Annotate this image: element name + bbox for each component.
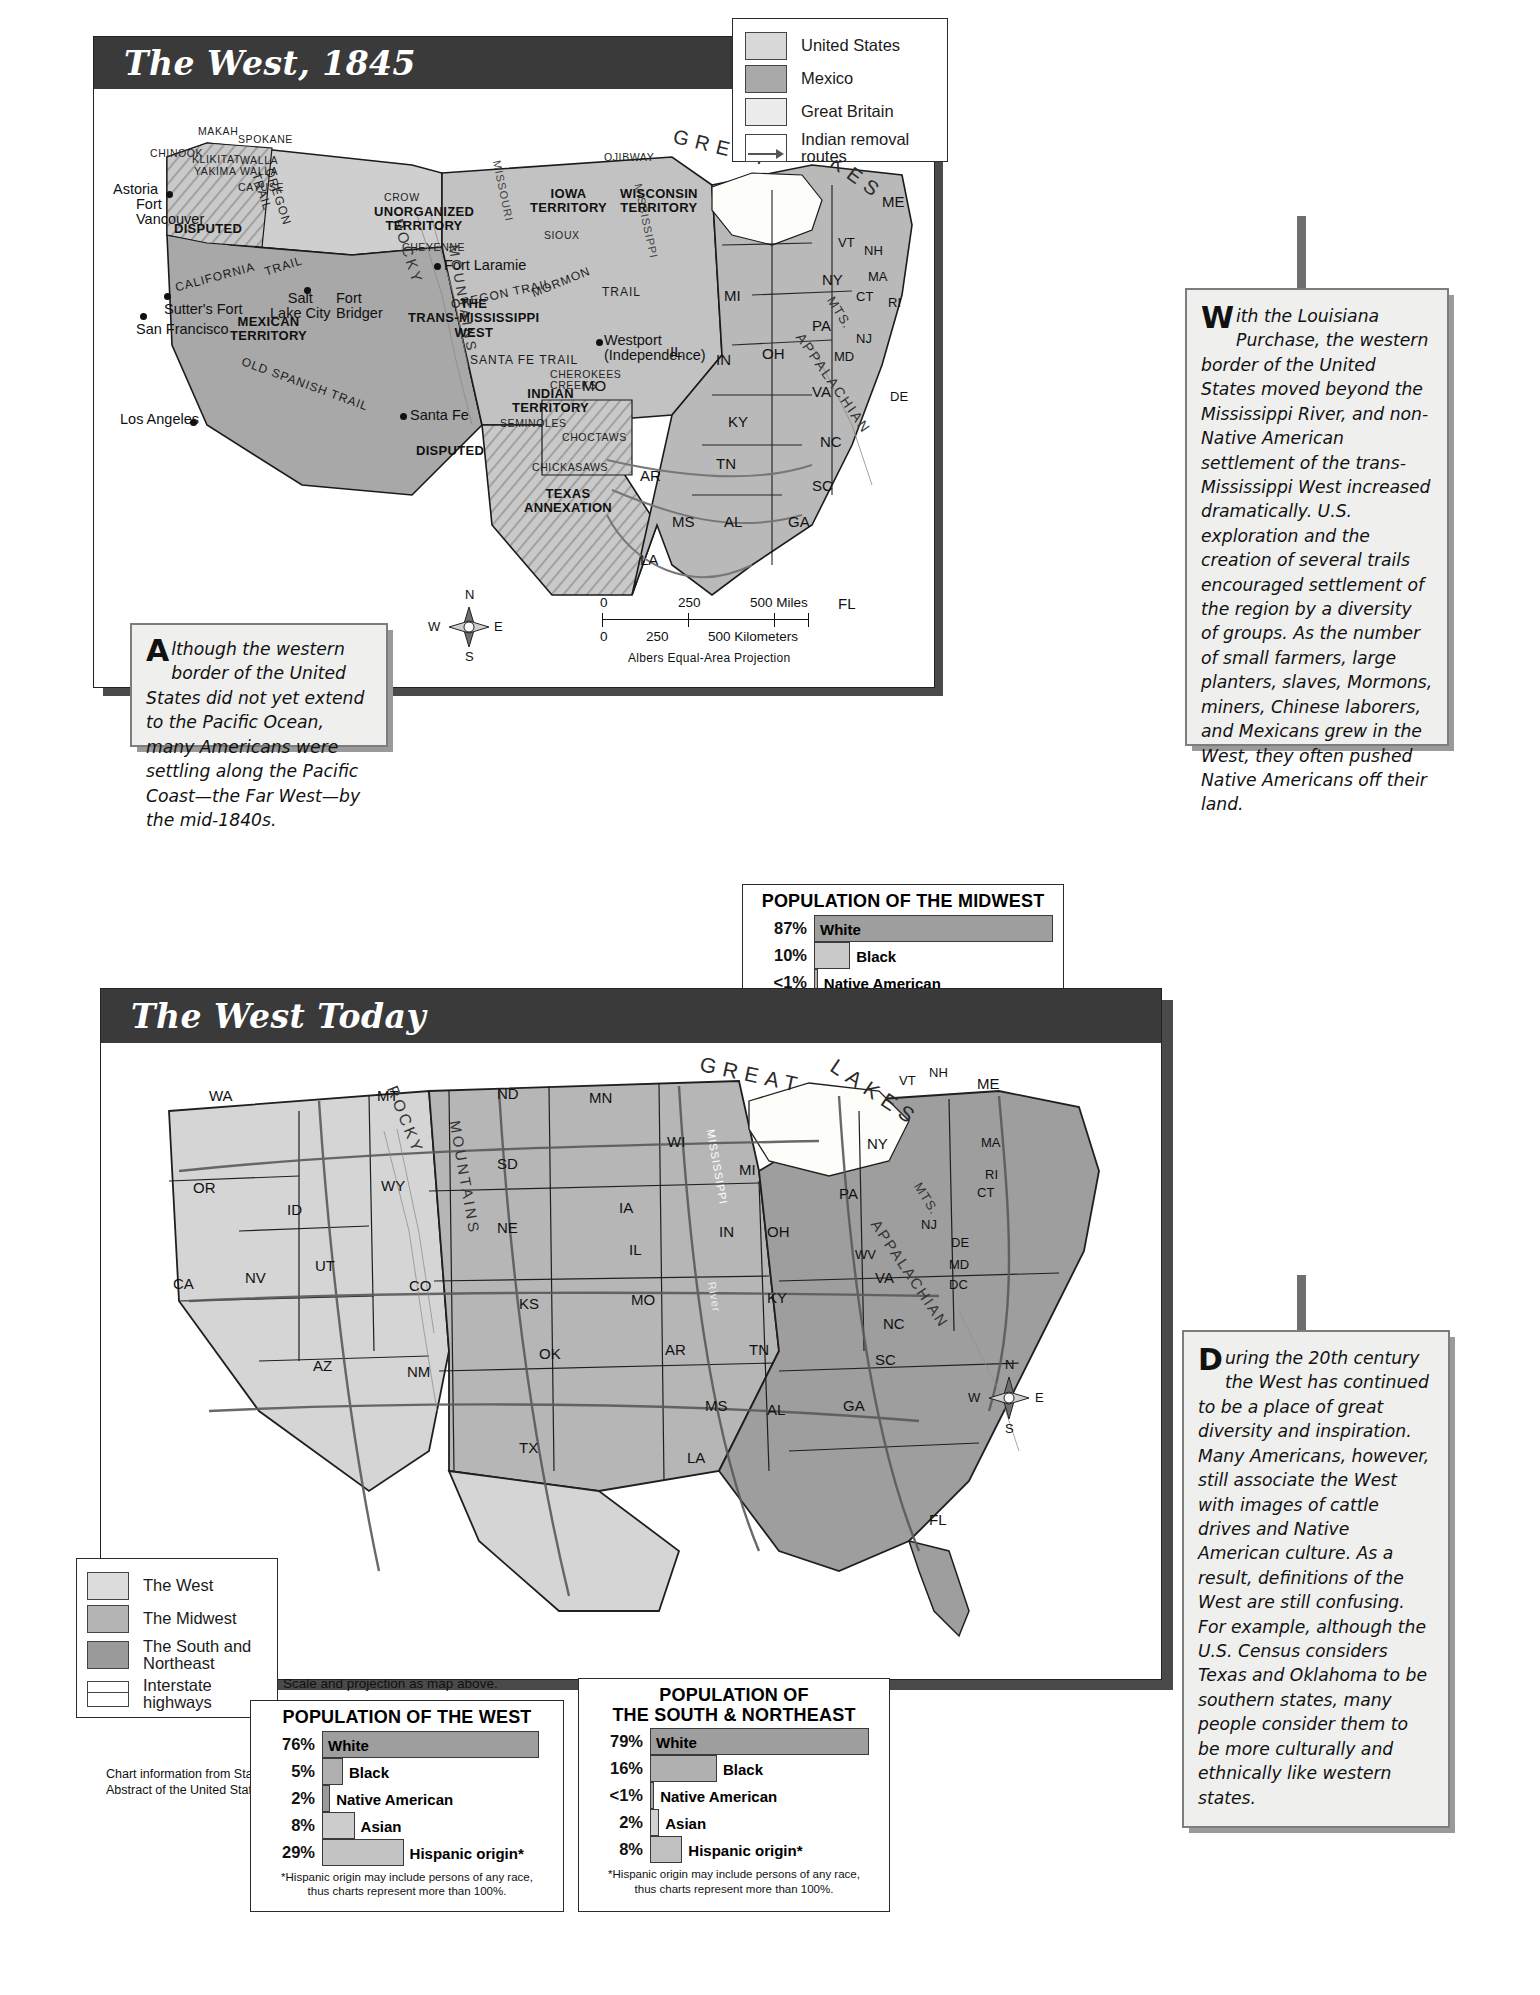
chart-bar-label: Asian bbox=[355, 1817, 402, 1834]
state-label-ar: AR bbox=[640, 467, 661, 484]
territory-label-iowa: IOWATERRITORY bbox=[530, 187, 607, 216]
state-label-ne: NE bbox=[497, 1219, 518, 1236]
chart-south-northeast-rows: 79% White 16% Black <1% Native American … bbox=[579, 1728, 889, 1865]
chart-west-footnote: *Hispanic origin may include persons of … bbox=[251, 1868, 563, 1905]
chart-row: <1% Native American bbox=[587, 1782, 881, 1809]
territory-label-indian: INDIANTERRITORY bbox=[512, 387, 589, 416]
legend-swatch-mexico bbox=[745, 65, 787, 93]
state-label-de: DE bbox=[951, 1235, 969, 1250]
tribe-label-chickasaws: CHICKASAWS bbox=[532, 461, 608, 473]
map-today-title: The West Today bbox=[101, 997, 426, 1036]
legend-label-indian-removal-routes: Indian removalroutes bbox=[801, 131, 909, 166]
chart-west-rows: 76% White 5% Black 2% Native American 8%… bbox=[251, 1731, 563, 1868]
city-label-astoria: Astoria bbox=[113, 181, 158, 197]
state-label-mo: MO bbox=[631, 1291, 655, 1308]
state-label-nm: NM bbox=[407, 1363, 430, 1380]
chart-bar-label: White bbox=[322, 1736, 369, 1753]
tribe-label-sioux: SIOUX bbox=[544, 229, 580, 241]
chart-value-label: 87% bbox=[751, 915, 814, 942]
chart-south-northeast-footnote: *Hispanic origin may include persons of … bbox=[579, 1865, 889, 1902]
chart-bar bbox=[322, 1758, 343, 1785]
state-label-nc: NC bbox=[820, 433, 842, 450]
map-today-banner: The West Today bbox=[101, 989, 1161, 1043]
tribe-label-spokane: SPOKANE bbox=[238, 133, 293, 145]
legend-label-united-states: United States bbox=[801, 37, 900, 55]
chart-row: 87% White bbox=[751, 915, 1055, 942]
tribe-label-ojibway: OJIBWAY bbox=[604, 151, 654, 163]
state-label-al: AL bbox=[724, 513, 742, 530]
callout-stem-louisiana bbox=[1297, 216, 1306, 288]
legend-item-mexico[interactable]: Mexico bbox=[745, 65, 935, 93]
arrow-right-icon bbox=[745, 134, 787, 162]
state-label-vt: VT bbox=[838, 235, 855, 250]
city-dot-fort-laramie bbox=[434, 263, 441, 270]
state-label-co: CO bbox=[409, 1277, 432, 1294]
callout-west-border-text-wrap: Although the western border of the Unite… bbox=[130, 623, 394, 753]
legend-item-the-south-and-northeast[interactable]: The South andNortheast bbox=[87, 1638, 267, 1672]
trail-label-trail-2: TRAIL bbox=[602, 285, 641, 299]
state-label-id: ID bbox=[287, 1201, 302, 1218]
legend-item-the-midwest[interactable]: The Midwest bbox=[87, 1605, 267, 1633]
state-label-wi: WI bbox=[667, 1133, 685, 1150]
chart-value-label: 10% bbox=[751, 942, 814, 969]
chart-row: 76% White bbox=[259, 1731, 555, 1758]
chart-value-label: 79% bbox=[587, 1728, 650, 1755]
state-label-pa: PA bbox=[839, 1185, 858, 1202]
map-1845-title: The West, 1845 bbox=[94, 44, 416, 83]
state-label-fl: FL bbox=[838, 595, 856, 612]
city-label-los-angeles: Los Angeles bbox=[120, 411, 199, 427]
scale-projection-note: Scale and projection as map above. bbox=[283, 1676, 498, 1691]
highway-lines-icon bbox=[87, 1681, 129, 1707]
city-label-fort-vancouver: FortVancouver bbox=[136, 197, 204, 227]
chart-bar bbox=[322, 1812, 355, 1839]
legend-item-united-states[interactable]: United States bbox=[745, 32, 935, 60]
chart-bar-label: Hispanic origin* bbox=[404, 1844, 524, 1861]
state-label-dc: DC bbox=[949, 1277, 968, 1292]
legend-item-interstate-highways[interactable]: Interstatehighways bbox=[87, 1677, 267, 1711]
state-label-mi: MI bbox=[724, 287, 741, 304]
state-label-ca: CA bbox=[173, 1275, 194, 1292]
state-label-vt: VT bbox=[899, 1073, 916, 1088]
chart-row: 2% Native American bbox=[259, 1785, 555, 1812]
legend-item-great-britain[interactable]: Great Britain bbox=[745, 98, 935, 126]
chart-bar bbox=[650, 1755, 717, 1782]
state-label-al: AL bbox=[767, 1401, 785, 1418]
callout-20th-century: During the 20th century the West has con… bbox=[1182, 1330, 1454, 1830]
legend-item-the-west[interactable]: The West bbox=[87, 1572, 267, 1600]
state-label-nv: NV bbox=[245, 1269, 266, 1286]
chart-value-label: 8% bbox=[259, 1812, 322, 1839]
state-label-ky: KY bbox=[728, 413, 748, 430]
city-label-salt-lake-city: SaltLake City bbox=[270, 291, 330, 321]
chart-bar bbox=[814, 942, 850, 969]
state-label-mn: MN bbox=[589, 1089, 612, 1106]
chart-bar bbox=[322, 1785, 330, 1812]
callout-louisiana-purchase: With the Louisiana Purchase, the western… bbox=[1185, 288, 1453, 748]
legend-1845: United States Mexico Great Britain India… bbox=[732, 18, 948, 162]
map-1845-svg bbox=[112, 95, 917, 673]
state-label-mt: MT bbox=[377, 1087, 399, 1104]
state-label-ri: RI bbox=[888, 295, 901, 310]
chart-bar bbox=[322, 1839, 404, 1866]
state-label-mi: MI bbox=[739, 1161, 756, 1178]
state-label-il: IL bbox=[670, 343, 683, 360]
state-label-sd: SD bbox=[497, 1155, 518, 1172]
callout-dropcap-w: W bbox=[1201, 306, 1234, 330]
chart-footnote-line2: thus charts represent more than 100%. bbox=[308, 1885, 507, 1897]
state-label-md: MD bbox=[949, 1257, 969, 1272]
city-label-santa-fe: Santa Fe bbox=[410, 407, 469, 423]
state-label-ky: KY bbox=[767, 1289, 787, 1306]
chart-bar-label: Black bbox=[343, 1763, 389, 1780]
legend-label-the-south-and-northeast: The South andNortheast bbox=[143, 1638, 251, 1672]
chart-bar bbox=[650, 1809, 659, 1836]
chart-title-line2: THE SOUTH & NORTHEAST bbox=[612, 1705, 855, 1725]
chart-value-label: 76% bbox=[259, 1731, 322, 1758]
state-label-ny: NY bbox=[867, 1135, 888, 1152]
legend-item-indian-removal-routes[interactable]: Indian removalroutes bbox=[745, 131, 935, 166]
state-label-tn: TN bbox=[749, 1341, 769, 1358]
compass-rose-1845: N S E W bbox=[424, 587, 514, 667]
city-dot-sutters-fort bbox=[164, 293, 171, 300]
chart-footnote-line1: *Hispanic origin may include persons of … bbox=[608, 1868, 860, 1880]
city-label-fort-bridger: FortBridger bbox=[336, 291, 383, 321]
chart-footnote-line1: *Hispanic origin may include persons of … bbox=[281, 1871, 533, 1883]
state-label-me: ME bbox=[977, 1075, 1000, 1092]
